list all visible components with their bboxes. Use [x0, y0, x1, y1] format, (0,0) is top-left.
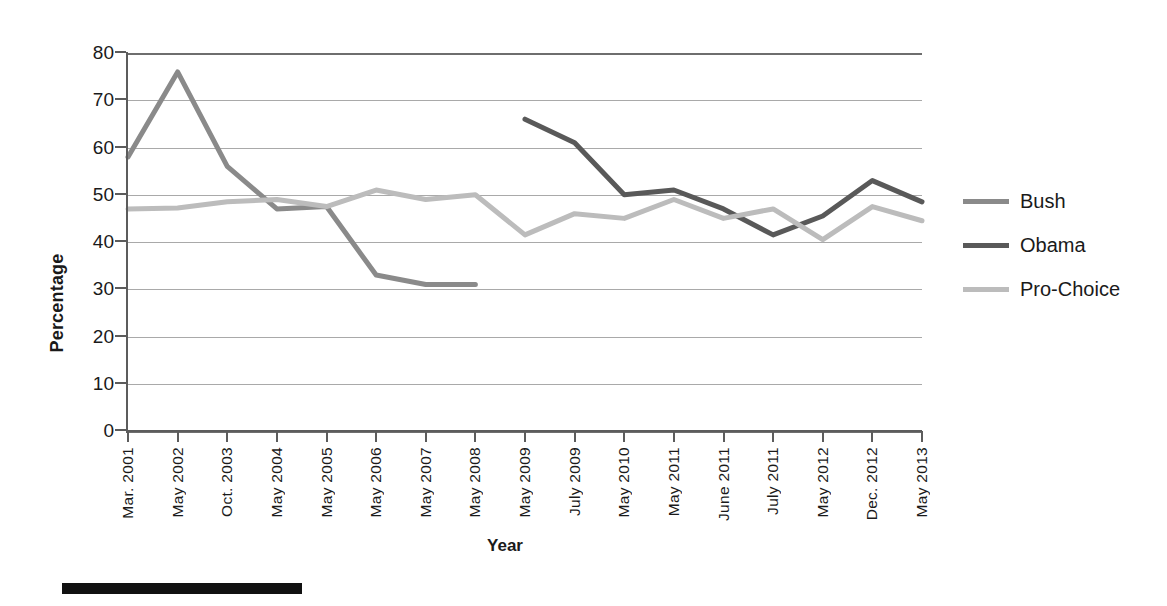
- x-axis-tick-label: Mar. 2001: [119, 447, 137, 519]
- x-axis-tick-label: Oct. 2003: [218, 447, 236, 517]
- x-axis-tick: [524, 431, 526, 442]
- legend-label: Pro-Choice: [1020, 278, 1120, 301]
- x-axis-tick: [226, 431, 228, 442]
- series-line-bush: [128, 72, 475, 285]
- x-axis-tick: [127, 431, 129, 442]
- y-axis-tick-label: 80: [93, 42, 114, 64]
- x-axis-tick: [723, 431, 725, 442]
- x-axis-tick-label: July 2009: [566, 447, 584, 516]
- x-axis-tick-label: May 2007: [417, 447, 435, 517]
- y-axis-tick-label: 70: [93, 89, 114, 111]
- x-axis-tick: [673, 431, 675, 442]
- series-line-pro-choice: [128, 190, 922, 240]
- x-axis-tick: [326, 431, 328, 442]
- plot-area: [128, 53, 922, 431]
- x-axis-tick: [921, 431, 923, 442]
- x-axis-tick-label: May 2002: [169, 447, 187, 517]
- x-axis-tick: [177, 431, 179, 442]
- x-axis-tick-label: May 2013: [913, 447, 931, 517]
- y-axis-tick-label: 10: [93, 373, 114, 395]
- y-axis-tick-label: 0: [103, 420, 114, 442]
- legend-swatch: [963, 287, 1009, 292]
- x-axis-title: Year: [0, 536, 1010, 556]
- y-axis-tick-label: 30: [93, 278, 114, 300]
- line-chart: Percentage 01020304050607080 Mar. 2001Ma…: [0, 0, 1167, 606]
- legend-swatch: [963, 243, 1009, 248]
- y-axis-tick-label: 40: [93, 231, 114, 253]
- x-axis-tick: [772, 431, 774, 442]
- x-axis-tick-label: May 2006: [367, 447, 385, 517]
- x-axis-tick-label: June 2011: [715, 447, 733, 521]
- legend-label: Bush: [1020, 190, 1066, 213]
- x-axis-tick-label: May 2008: [466, 447, 484, 517]
- y-axis-line: [126, 52, 128, 433]
- y-axis-tick-label: 50: [93, 184, 114, 206]
- y-axis-tick: [115, 429, 126, 431]
- y-axis-tick-label: 20: [93, 326, 114, 348]
- x-axis-tick: [623, 431, 625, 442]
- y-axis-tick: [115, 193, 126, 195]
- legend-item-obama[interactable]: Obama: [963, 223, 1120, 267]
- y-axis-tick-label: 60: [93, 137, 114, 159]
- legend-item-pro-choice[interactable]: Pro-Choice: [963, 267, 1120, 311]
- x-axis-tick: [574, 431, 576, 442]
- y-axis-tick: [115, 335, 126, 337]
- x-axis-tick: [871, 431, 873, 442]
- x-axis-tick: [425, 431, 427, 442]
- x-axis-tick-label: May 2004: [268, 447, 286, 517]
- x-axis-tick: [474, 431, 476, 442]
- x-axis-tick-label: Dec. 2012: [863, 447, 881, 520]
- y-axis-tick-labels: 01020304050607080: [48, 0, 114, 606]
- x-axis-tick-label: July 2011: [764, 447, 782, 515]
- x-axis-tick: [276, 431, 278, 442]
- y-axis-tick: [115, 98, 126, 100]
- x-axis-tick-label: May 2009: [516, 447, 534, 517]
- x-axis-tick-label: May 2012: [814, 447, 832, 517]
- bottom-rule: [62, 583, 302, 594]
- x-axis-tick: [822, 431, 824, 442]
- x-axis-tick-label: May 2005: [318, 447, 336, 517]
- y-axis-tick: [115, 146, 126, 148]
- legend-item-bush[interactable]: Bush: [963, 179, 1120, 223]
- x-axis-tick-label: May 2011: [665, 447, 683, 516]
- legend-label: Obama: [1020, 234, 1086, 257]
- y-axis-tick: [115, 382, 126, 384]
- x-axis-tick: [375, 431, 377, 442]
- y-axis-tick: [115, 51, 126, 53]
- legend-swatch: [963, 199, 1009, 204]
- chart-legend: BushObamaPro-Choice: [963, 179, 1120, 311]
- series-lines: [128, 53, 922, 431]
- x-axis-tick-label: May 2010: [615, 447, 633, 517]
- y-axis-tick: [115, 287, 126, 289]
- y-axis-tick: [115, 240, 126, 242]
